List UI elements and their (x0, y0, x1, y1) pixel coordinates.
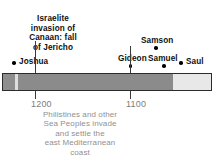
person-label-samuel: Samuel (148, 54, 178, 63)
caption-line-3: and settle the (16, 129, 144, 138)
annotation-line-3: Canaan: fall (14, 33, 92, 43)
samson-dot (154, 46, 158, 50)
person-label-saul: Saul (186, 57, 204, 66)
caption-philistines: Philistines and other Sea Peoples invade… (16, 110, 144, 157)
annotation-line-2: invasion of (14, 24, 92, 34)
saul-dot (179, 61, 183, 65)
annotation-israelite-invasion: Israelite invasion of Canaan: fall of Je… (14, 14, 92, 52)
bar-segment-main-period (18, 74, 173, 90)
annotation-line-1: Israelite (14, 14, 92, 24)
bar-segment-early-period (3, 74, 15, 90)
timeline-bar (2, 73, 212, 91)
caption-line-1: Philistines and other (16, 110, 144, 119)
caption-line-5: coast (16, 148, 144, 157)
date-label-1100: 1100 (126, 99, 146, 109)
date-label-1200: 1200 (31, 99, 52, 109)
person-label-samson: Samson (141, 36, 173, 45)
bar-segment-late-period (173, 74, 211, 90)
samuel-dot (162, 64, 166, 68)
person-label-joshua: Joshua (19, 57, 48, 66)
timeline-figure: Israelite invasion of Canaan: fall of Je… (0, 0, 221, 157)
caption-line-4: east Mediterranean (16, 138, 144, 147)
person-label-gideon: Gideon (118, 54, 147, 63)
joshua-dot (12, 61, 16, 65)
annotation-line-4: of Jericho (14, 43, 92, 53)
caption-line-2: Sea Peoples invade (16, 119, 144, 128)
